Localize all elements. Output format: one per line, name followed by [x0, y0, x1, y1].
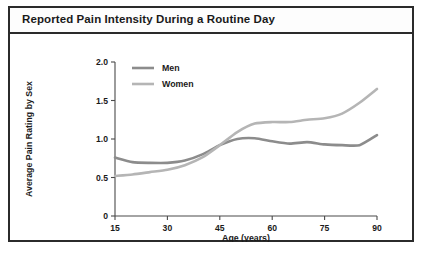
y-axis-ticks: 00.51.01.52.0	[96, 57, 115, 221]
x-tick-label: 45	[215, 223, 225, 233]
plot-area: 00.51.01.52.0 Average Pain Rating by Sex…	[10, 34, 412, 242]
x-tick-label: 90	[372, 223, 382, 233]
y-tick-label: 1.5	[96, 96, 108, 106]
chart-figure: Reported Pain Intensity During a Routine…	[8, 6, 414, 242]
x-tick-label: 15	[110, 223, 120, 233]
page-title: Reported Pain Intensity During a Routine…	[22, 13, 275, 25]
chart-title-bar: Reported Pain Intensity During a Routine…	[10, 8, 412, 34]
series-line-men	[115, 135, 377, 163]
chart-legend: MenWomen	[132, 63, 194, 89]
x-tick-label: 30	[163, 223, 173, 233]
y-tick-label: 2.0	[96, 57, 108, 67]
x-tick-label: 75	[320, 223, 330, 233]
x-tick-label: 60	[267, 223, 277, 233]
data-series-group	[115, 89, 377, 176]
legend-label-men: Men	[162, 63, 180, 73]
y-axis: 00.51.01.52.0 Average Pain Rating by Sex	[24, 57, 115, 221]
y-tick-label: 0.5	[96, 173, 108, 183]
x-axis-ticks: 153045607590	[110, 216, 382, 233]
y-tick-label: 1.0	[96, 134, 108, 144]
x-axis: 153045607590 Age (years)	[110, 216, 382, 242]
line-chart-svg: 00.51.01.52.0 Average Pain Rating by Sex…	[10, 34, 412, 242]
x-axis-title: Age (years)	[222, 233, 270, 242]
legend-label-women: Women	[162, 79, 194, 89]
y-tick-label: 0	[103, 211, 108, 221]
y-axis-title: Average Pain Rating by Sex	[24, 81, 34, 197]
